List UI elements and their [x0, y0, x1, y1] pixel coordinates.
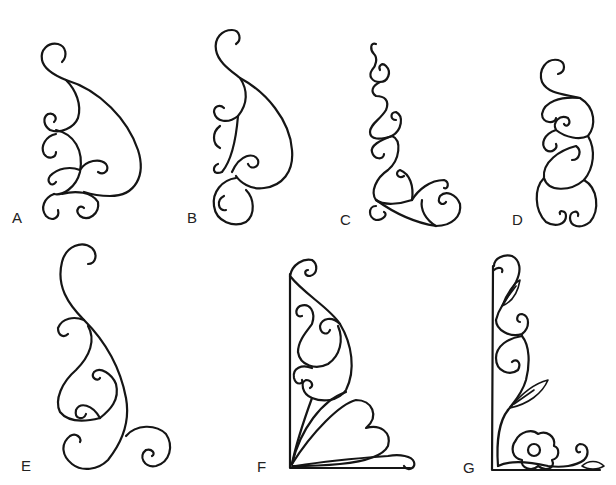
- ornament-figure: [0, 0, 616, 485]
- ornament-g: [492, 255, 604, 470]
- label-a: A: [12, 210, 22, 225]
- ornament-d: [537, 60, 597, 227]
- ornament-b: [214, 30, 292, 224]
- label-f: F: [257, 459, 266, 474]
- label-e: E: [21, 458, 31, 473]
- ornament-f: [290, 260, 414, 469]
- label-b: B: [187, 210, 197, 225]
- label-c: C: [340, 212, 351, 227]
- ornament-a: [42, 44, 141, 219]
- label-g: G: [463, 460, 475, 475]
- label-d: D: [512, 212, 523, 227]
- ornament-c: [370, 44, 460, 226]
- ornament-e: [58, 244, 170, 468]
